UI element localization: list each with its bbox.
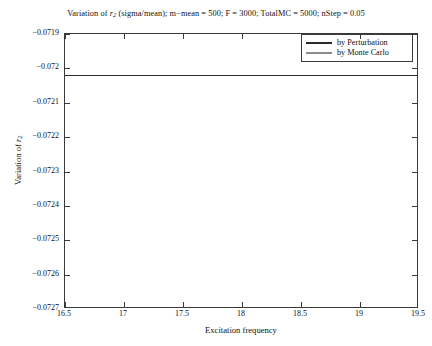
- y-axis-tick-mark: [65, 206, 70, 207]
- x-axis-tick-mark: [360, 34, 361, 39]
- x-axis-tick-label: 18.5: [280, 310, 320, 318]
- y-axis-tick-mark: [65, 240, 70, 241]
- y-axis-tick-label: −0.0724: [0, 201, 59, 209]
- legend-label-by-monte-carlo: by Monte Carlo: [337, 48, 389, 58]
- chart-title-prefix: Variation of: [67, 9, 110, 18]
- x-axis-tick-mark: [65, 302, 66, 307]
- y-axis-tick-mark: [65, 68, 70, 69]
- x-axis-tick-label: 17.5: [162, 310, 202, 318]
- series-line-by-perturbation: [65, 75, 417, 76]
- legend-item-by-monte-carlo: by Monte Carlo: [306, 48, 408, 58]
- x-axis-tick-mark: [124, 302, 125, 307]
- x-axis-tick-label: 19: [339, 310, 379, 318]
- y-axis-tick-mark: [65, 137, 70, 138]
- y-axis-tick-label: −0.0722: [0, 132, 59, 140]
- x-axis-tick-mark: [242, 34, 243, 39]
- legend-label-by-perturbation: by Perturbation: [337, 38, 388, 48]
- legend-box: by Perturbation by Monte Carlo: [301, 34, 413, 62]
- x-axis-tick-label: 17: [103, 310, 143, 318]
- chart-title: Variation of r2 (sigma/mean); m−mean = 5…: [0, 9, 432, 20]
- x-axis-tick-mark: [65, 34, 66, 39]
- y-axis-tick-mark: [412, 172, 417, 173]
- y-axis-title-variable: r: [13, 139, 23, 142]
- x-axis-tick-label: 16.5: [44, 310, 84, 318]
- x-axis-tick-mark: [183, 34, 184, 39]
- legend-item-by-perturbation: by Perturbation: [306, 38, 408, 48]
- plot-inner: by Perturbation by Monte Carlo: [65, 34, 417, 307]
- y-axis-tick-mark: [412, 240, 417, 241]
- x-axis-tick-mark: [360, 302, 361, 307]
- y-axis-tick-mark: [412, 68, 417, 69]
- legend-swatch-by-perturbation: [306, 38, 332, 48]
- y-axis-tick-mark: [65, 103, 70, 104]
- x-axis-title: Excitation frequency: [64, 325, 418, 335]
- x-axis-tick-label: 19.5: [398, 310, 432, 318]
- chart-figure: Variation of r2 (sigma/mean); m−mean = 5…: [0, 0, 432, 346]
- plot-area: by Perturbation by Monte Carlo: [64, 33, 418, 308]
- legend-swatch-by-monte-carlo: [306, 48, 332, 58]
- y-axis-tick-mark: [412, 103, 417, 104]
- y-axis-tick-label: −0.072: [0, 63, 59, 71]
- y-axis-title: Variation of r2: [13, 90, 23, 230]
- x-axis-tick-mark: [242, 302, 243, 307]
- x-axis-tick-mark: [124, 34, 125, 39]
- y-axis-tick-label: −0.0725: [0, 235, 59, 243]
- y-axis-tick-label: −0.0721: [0, 98, 59, 106]
- y-axis-tick-mark: [412, 34, 417, 35]
- chart-title-suffix: (sigma/mean); m−mean = 500; F = 3000; To…: [116, 9, 365, 18]
- y-axis-title-variable-subscript: 2: [16, 135, 23, 138]
- y-axis-title-prefix: Variation of: [13, 142, 23, 185]
- y-axis-tick-mark: [412, 137, 417, 138]
- x-axis-tick-mark: [301, 302, 302, 307]
- x-axis-tick-mark: [301, 34, 302, 39]
- y-axis-tick-mark: [412, 206, 417, 207]
- y-axis-tick-mark: [65, 275, 70, 276]
- y-axis-tick-label: −0.0726: [0, 270, 59, 278]
- x-axis-tick-mark: [183, 302, 184, 307]
- y-axis-tick-mark: [412, 275, 417, 276]
- y-axis-tick-label: −0.0719: [0, 29, 59, 37]
- y-axis-tick-mark: [65, 172, 70, 173]
- y-axis-tick-label: −0.0723: [0, 167, 59, 175]
- x-axis-tick-label: 18: [221, 310, 261, 318]
